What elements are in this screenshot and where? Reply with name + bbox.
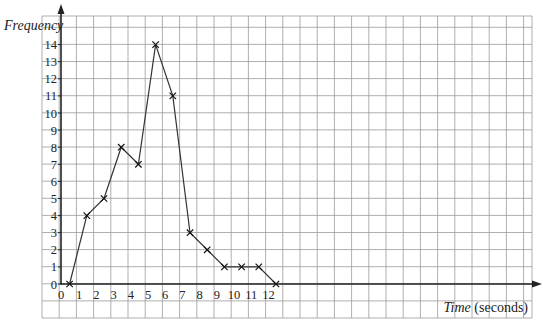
y-tick-label: 8	[51, 141, 57, 155]
x-tick-label: 1	[76, 288, 82, 302]
x-tick-label: 8	[196, 288, 202, 302]
x-axis-label: Time (seconds)	[444, 300, 529, 316]
y-tick-label: 4	[51, 209, 58, 223]
y-tick-label: 9	[51, 124, 57, 138]
y-tick-label: 10	[45, 107, 58, 121]
x-tick-label: 10	[228, 288, 241, 302]
x-tick-label: 0	[58, 288, 64, 302]
y-tick-label: 7	[51, 158, 57, 172]
grid	[42, 16, 532, 318]
y-tick-label: 13	[45, 55, 58, 69]
x-tick-label: 9	[214, 288, 220, 302]
y-tick-label: 12	[45, 72, 58, 86]
x-tick-label: 11	[245, 288, 257, 302]
x-tick-label: 2	[93, 288, 99, 302]
y-tick-label: 6	[51, 175, 57, 189]
y-tick-label: 11	[45, 89, 57, 103]
tick-labels: 012345678910111213140123456789101112	[45, 38, 275, 302]
y-axis-label: Frequency	[3, 18, 64, 33]
y-tick-label: 3	[51, 226, 57, 240]
x-tick-label: 7	[179, 288, 185, 302]
frequency-polygon-chart: 012345678910111213140123456789101112 Fre…	[0, 0, 545, 329]
x-tick-label: 6	[162, 288, 168, 302]
y-tick-label: 14	[45, 38, 58, 52]
x-tick-label: 5	[145, 288, 151, 302]
y-tick-label: 2	[51, 243, 57, 257]
x-tick-label: 12	[262, 288, 275, 302]
x-tick-label: 3	[110, 288, 116, 302]
y-tick-label: 0	[51, 278, 57, 292]
y-tick-label: 5	[51, 192, 57, 206]
y-tick-label: 1	[51, 260, 57, 274]
x-tick-label: 4	[128, 288, 135, 302]
